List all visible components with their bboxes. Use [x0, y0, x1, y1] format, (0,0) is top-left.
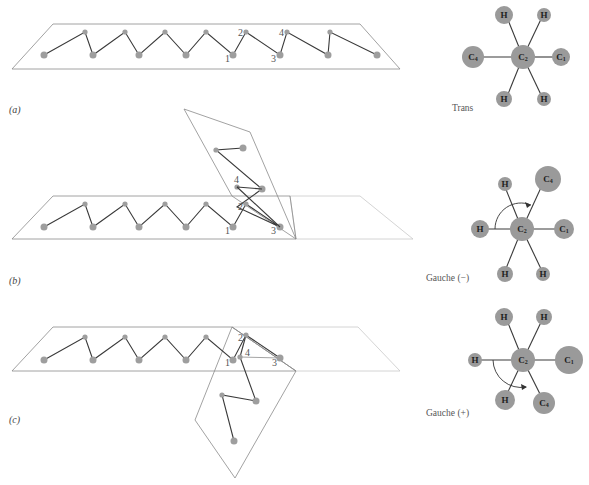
- backbone-number-1: 1: [225, 53, 230, 64]
- newman-projection-gauche-plus: C2 C4 C1 H H H H: [468, 308, 583, 414]
- atom: [122, 334, 127, 339]
- panel-label-a: (a): [9, 104, 21, 116]
- atom: [82, 201, 87, 206]
- atom-h-label: H: [540, 312, 547, 322]
- atom-h-label: H: [471, 355, 478, 365]
- atom-3: [277, 52, 284, 59]
- atom-2: [243, 201, 248, 206]
- atom: [325, 52, 332, 59]
- backbone-number-3: 3: [271, 53, 276, 64]
- atom-1: [230, 357, 237, 364]
- atom-h-label: H: [500, 312, 507, 322]
- atom-3: [277, 355, 284, 362]
- atom-1: [230, 52, 237, 59]
- conformation-label-gauche-minus: Gauche (−): [426, 273, 469, 284]
- atom-h-label: H: [540, 94, 547, 104]
- atom-4: [237, 354, 242, 359]
- chain-c: 1 2 3 4: [41, 332, 284, 445]
- carbon-chain-bonds: [44, 32, 377, 55]
- panel-label-c: (c): [9, 414, 21, 426]
- backbone-number-4: 4: [245, 347, 250, 358]
- arrowhead-icon: [525, 202, 531, 208]
- atom: [136, 224, 143, 231]
- backbone-number-2: 2: [238, 201, 243, 212]
- atom: [41, 357, 48, 364]
- atom: [374, 52, 381, 59]
- atom: [162, 334, 167, 339]
- panel-c: 1 2 3 4 (c): [9, 327, 400, 478]
- atom: [203, 334, 208, 339]
- atom-h-label: H: [501, 269, 508, 279]
- atom: [162, 201, 167, 206]
- backbone-number-1: 1: [225, 225, 230, 236]
- atom-h-label: H: [500, 94, 507, 104]
- atom: [203, 201, 208, 206]
- conformation-diagram: 1 2 3 4 (a) C2 C4 C1 H H H H Trans: [0, 0, 589, 485]
- extended-plane: [290, 196, 413, 239]
- backbone-number-3: 3: [272, 357, 277, 368]
- panel-b: 1 2 3 4 (b): [9, 109, 413, 287]
- arrowhead-icon: [521, 384, 527, 390]
- atom: [203, 29, 208, 34]
- atom: [90, 52, 97, 59]
- backbone-number-1: 1: [225, 357, 230, 368]
- atom: [82, 29, 87, 34]
- newman-projection-trans: C2 C4 C1 H H H H: [462, 6, 570, 107]
- atom: [41, 52, 48, 59]
- atom: [183, 52, 190, 59]
- atom-h-label: H: [539, 269, 546, 279]
- atom: [327, 29, 332, 34]
- atom-h-label: H: [501, 395, 508, 405]
- atom: [231, 438, 238, 445]
- conformation-label-trans: Trans: [452, 103, 474, 113]
- atom-h-label: H: [500, 10, 507, 20]
- atom-2: [243, 332, 248, 337]
- rotated-plane: [184, 109, 296, 239]
- panel-a: 1 2 3 4 (a): [9, 24, 400, 116]
- atom: [90, 224, 97, 231]
- conformation-label-gauche-plus: Gauche (+): [426, 408, 469, 419]
- atom-h-label: H: [501, 179, 508, 189]
- atom: [213, 147, 218, 152]
- atom: [82, 334, 87, 339]
- bond-3-to-4: [237, 187, 280, 227]
- backbone-number-3: 3: [271, 225, 276, 236]
- atom: [240, 145, 247, 152]
- chain-b: 1 2 3 4: [41, 145, 284, 237]
- atom: [183, 357, 190, 364]
- bond-4-to-next: [237, 187, 262, 189]
- panel-label-b: (b): [9, 275, 21, 287]
- atom: [122, 29, 127, 34]
- atom: [219, 392, 224, 397]
- atom: [90, 357, 97, 364]
- atom-h-label: H: [476, 224, 483, 234]
- atom: [41, 224, 48, 231]
- atom: [122, 201, 127, 206]
- atom-2: [243, 29, 248, 34]
- atom: [136, 52, 143, 59]
- atom-1: [230, 224, 237, 231]
- backbone-number-2: 2: [238, 27, 243, 38]
- atom: [136, 357, 143, 364]
- backbone-number-4: 4: [279, 27, 284, 38]
- atom-h-label: H: [540, 10, 547, 20]
- atom: [183, 224, 190, 231]
- backbone-number-4: 4: [234, 174, 239, 185]
- extended-plane: [232, 327, 400, 371]
- atom-4: [284, 29, 289, 34]
- atom: [253, 398, 260, 405]
- backbone-number-2: 2: [238, 332, 243, 343]
- rotated-chain-bonds: [222, 357, 256, 441]
- atom: [162, 29, 167, 34]
- chain-a: 1 2 3 4: [41, 27, 381, 64]
- chain-plane: [12, 327, 296, 371]
- newman-projection-gauche-minus: C2 C4 C1 H H H H: [471, 166, 574, 282]
